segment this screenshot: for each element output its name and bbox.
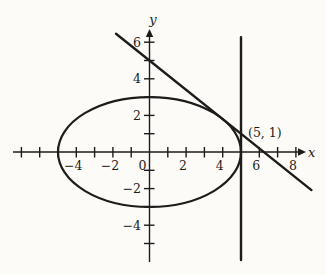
x-tick-label: 4 bbox=[216, 158, 224, 173]
point-label: (5, 1) bbox=[248, 125, 282, 140]
x-axis-label: x bbox=[308, 145, 316, 160]
plot-svg: −4−202468−4−2246xy(5, 1) bbox=[0, 0, 326, 275]
y-tick-label: 2 bbox=[133, 108, 141, 123]
y-tick-label: −4 bbox=[123, 218, 141, 233]
x-tick-label: 6 bbox=[252, 158, 260, 173]
y-tick-label: −2 bbox=[123, 181, 141, 196]
y-axis-arrow-icon bbox=[146, 29, 153, 37]
x-tick-label: −2 bbox=[101, 158, 119, 173]
x-tick-label: 0 bbox=[139, 158, 147, 173]
x-tick-label: −4 bbox=[64, 158, 82, 173]
coordinate-plane-figure: −4−202468−4−2246xy(5, 1) bbox=[0, 0, 326, 275]
y-axis-label: y bbox=[148, 12, 157, 27]
y-tick-label: 4 bbox=[133, 71, 141, 86]
x-axis-arrow-icon bbox=[298, 148, 306, 155]
x-tick-label: 2 bbox=[179, 158, 187, 173]
x-tick-label: 8 bbox=[289, 158, 297, 173]
